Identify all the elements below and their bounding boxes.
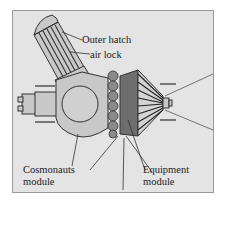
label-air-lock: air lock [90,49,122,60]
docking-rings [108,71,118,138]
equipment-module [120,70,172,136]
label-outer-hatch: Outer hatch [82,34,131,45]
label-cosmonauts-line1: Cosmonauts [23,164,75,175]
label-equipment-line2: module [143,176,175,187]
label-equipment-line1: Equipment [143,164,189,175]
label-cosmonauts-line2: module [23,176,55,187]
cosmonauts-module [18,72,108,137]
